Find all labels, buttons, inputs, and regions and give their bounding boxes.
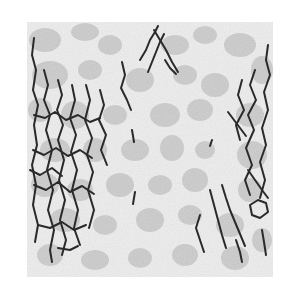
crack-pattern-image bbox=[0, 0, 297, 290]
